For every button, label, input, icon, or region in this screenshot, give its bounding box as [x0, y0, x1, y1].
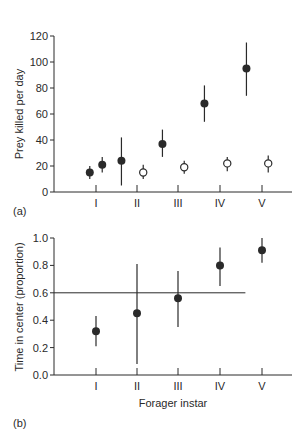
- open-circle-marker: [265, 160, 272, 167]
- filled-circle-marker: [98, 161, 106, 169]
- panel-a-ylabel: Prey killed per day: [13, 68, 25, 159]
- panel-b-data-points: [92, 238, 266, 364]
- y-tick-label: 0.6: [33, 287, 48, 299]
- filled-circle-marker: [200, 100, 208, 108]
- y-tick-label: 0.8: [33, 259, 48, 271]
- y-tick-label: 80: [36, 82, 48, 94]
- x-tick-label: I: [94, 380, 97, 392]
- panel-a-data-points: [86, 43, 272, 186]
- filled-circle-marker: [258, 246, 266, 254]
- panel-b-xlabel: Forager instar: [139, 397, 208, 409]
- y-tick-label: 0.2: [33, 342, 48, 354]
- filled-circle-marker: [133, 309, 141, 317]
- filled-circle-marker: [86, 169, 94, 177]
- filled-circle-marker: [117, 157, 125, 165]
- x-tick-label: III: [173, 197, 182, 209]
- x-tick-label: V: [258, 197, 266, 209]
- filled-circle-marker: [216, 261, 224, 269]
- open-circle-marker: [224, 160, 231, 167]
- panel-b-x-ticks: IIIIIIIVV: [94, 368, 266, 392]
- y-tick-label: 20: [36, 160, 48, 172]
- panel-b-ylabel: Time in center (proportion): [13, 242, 25, 371]
- y-tick-label: 100: [30, 56, 48, 68]
- figure: Prey killed per day 020406080100120 IIII…: [0, 0, 307, 443]
- y-tick-label: 1.0: [33, 232, 48, 244]
- y-tick-label: 0.0: [33, 369, 48, 381]
- y-tick-label: 60: [36, 108, 48, 120]
- filled-circle-marker: [242, 65, 250, 73]
- panel-b-y-ticks: 0.00.20.40.60.81.0: [33, 232, 54, 381]
- panel-a-label: (a): [13, 205, 26, 217]
- panel-b: Time in center (proportion) 0.00.20.40.6…: [13, 232, 292, 429]
- y-tick-label: 0: [42, 186, 48, 198]
- open-circle-marker: [140, 169, 147, 176]
- y-tick-label: 40: [36, 134, 48, 146]
- filled-circle-marker: [92, 327, 100, 335]
- filled-circle-marker: [174, 294, 182, 302]
- panel-b-label: (b): [13, 417, 26, 429]
- y-tick-label: 0.4: [33, 314, 48, 326]
- x-tick-label: II: [134, 197, 140, 209]
- x-tick-label: I: [94, 197, 97, 209]
- x-tick-label: II: [134, 380, 140, 392]
- filled-circle-marker: [158, 140, 166, 148]
- open-circle-marker: [181, 164, 188, 171]
- x-tick-label: V: [258, 380, 266, 392]
- x-tick-label: IV: [215, 380, 226, 392]
- y-tick-label: 120: [30, 30, 48, 42]
- panel-a-y-ticks: 020406080100120: [30, 30, 54, 198]
- x-tick-label: IV: [215, 197, 226, 209]
- panel-a-x-ticks: IIIIIIIVV: [94, 185, 266, 209]
- panel-a: Prey killed per day 020406080100120 IIII…: [13, 30, 292, 217]
- x-tick-label: III: [173, 380, 182, 392]
